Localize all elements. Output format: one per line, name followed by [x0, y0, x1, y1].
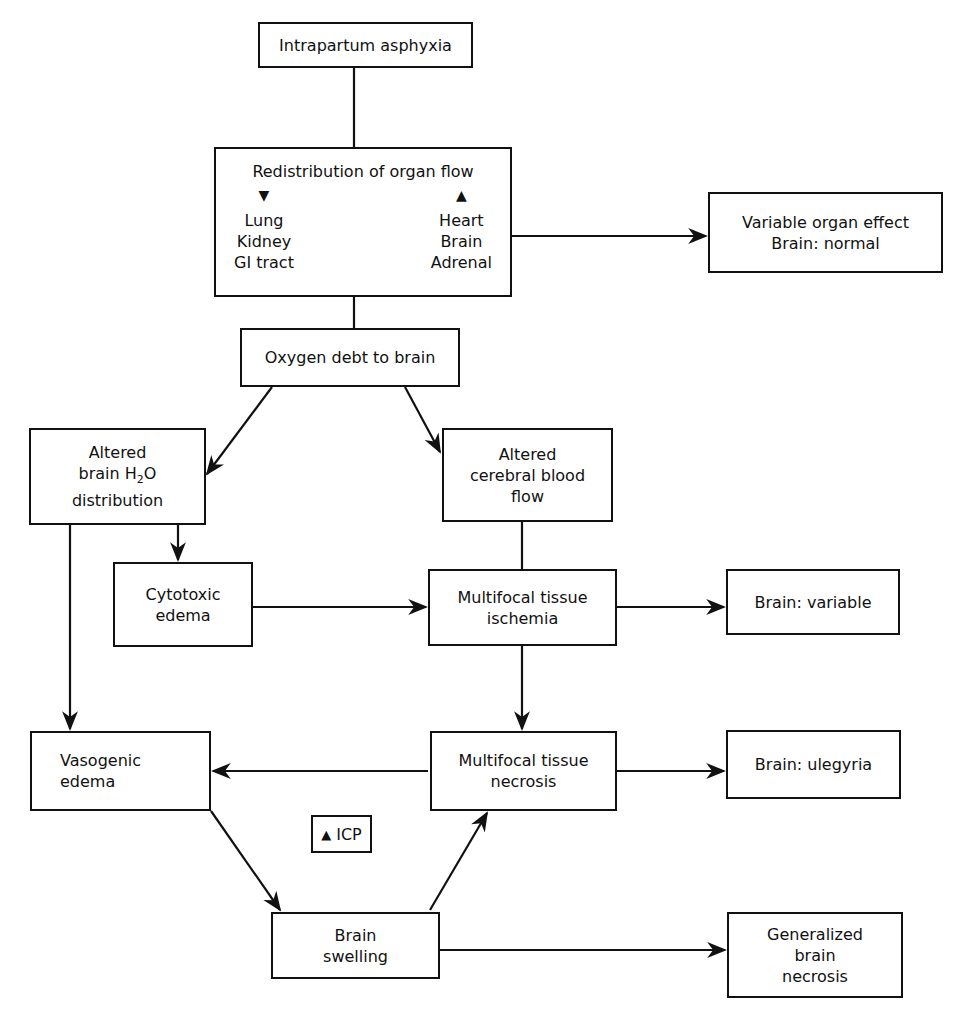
node-multifocal-ischemia: Multifocal tissue ischemia — [428, 569, 617, 646]
node-altered-brain-h2o: Altered brain H2O distribution — [29, 428, 206, 525]
node-altered-cerebral-blood-flow: Altered cerebral blood flow — [442, 428, 613, 522]
node-label: Brain: normal — [771, 233, 879, 254]
node-variable-organ-effect: Variable organ effect Brain: normal — [708, 192, 943, 273]
subscript: 2 — [137, 473, 144, 486]
node-label: Vasogenic — [60, 750, 141, 771]
node-label: Brain: ulegyria — [755, 754, 872, 775]
node-label: swelling — [323, 946, 388, 967]
node-label: Multifocal tissue — [458, 750, 588, 771]
node-multifocal-necrosis: Multifocal tissue necrosis — [430, 731, 617, 811]
label-part: brain H — [79, 464, 137, 483]
decreased-flow-group: ▼ Lung Kidney GI tract — [234, 186, 294, 273]
node-label: Oxygen debt to brain — [265, 347, 436, 368]
node-label: brain H2O — [79, 463, 157, 490]
node-label: edema — [60, 771, 115, 792]
node-label: flow — [511, 486, 544, 507]
node-brain-variable: Brain: variable — [726, 569, 900, 635]
node-title: Redistribution of organ flow — [252, 161, 473, 182]
node-label: brain — [794, 945, 835, 966]
edge-swelling-necrosis — [430, 813, 487, 910]
node-label: Brain — [335, 925, 377, 946]
node-label: necrosis — [782, 966, 848, 987]
node-redistribution-of-organ-flow: Redistribution of organ flow ▼ Lung Kidn… — [214, 147, 512, 297]
organ-item: GI tract — [234, 252, 294, 273]
edge-oxygen-cbf — [405, 387, 440, 452]
node-label: Altered — [499, 444, 557, 465]
node-cytotoxic-edema: Cytotoxic edema — [113, 562, 253, 647]
node-label: Cytotoxic — [146, 584, 221, 605]
organ-item: Kidney — [237, 231, 292, 252]
organ-item: Adrenal — [431, 252, 492, 273]
node-increased-icp: ▲ ICP — [311, 815, 372, 853]
node-label: Generalized — [767, 924, 863, 945]
arrow-down-icon: ▼ — [259, 186, 270, 204]
organ-item: Lung — [244, 210, 283, 231]
node-label: necrosis — [491, 771, 557, 792]
node-label: edema — [155, 605, 210, 626]
node-brain-swelling: Brain swelling — [271, 912, 440, 979]
node-label: Intrapartum asphyxia — [279, 35, 452, 56]
arrow-up-icon: ▲ — [321, 824, 331, 845]
node-label: Altered — [89, 442, 147, 463]
organ-item: Heart — [439, 210, 484, 231]
node-intrapartum-asphyxia: Intrapartum asphyxia — [258, 22, 473, 68]
edge-vasogenic-swelling — [211, 811, 280, 910]
node-label: ischemia — [487, 608, 558, 629]
node-vasogenic-edema: Vasogenic edema — [30, 731, 211, 811]
node-brain-ulegyria: Brain: ulegyria — [726, 730, 901, 799]
node-label: Variable organ effect — [742, 212, 909, 233]
organ-item: Brain — [440, 231, 482, 252]
node-label: cerebral blood — [470, 465, 585, 486]
node-label: distribution — [72, 490, 163, 511]
node-label: ICP — [336, 824, 362, 845]
label-part: O — [144, 464, 157, 483]
node-generalized-brain-necrosis: Generalized brain necrosis — [727, 912, 903, 998]
increased-flow-group: ▲ Heart Brain Adrenal — [431, 186, 492, 273]
node-oxygen-debt: Oxygen debt to brain — [240, 328, 460, 387]
node-label: Brain: variable — [755, 592, 872, 613]
arrow-up-icon: ▲ — [456, 186, 467, 204]
edge-oxygen-h2o — [207, 387, 272, 474]
node-label: Multifocal tissue — [457, 587, 587, 608]
